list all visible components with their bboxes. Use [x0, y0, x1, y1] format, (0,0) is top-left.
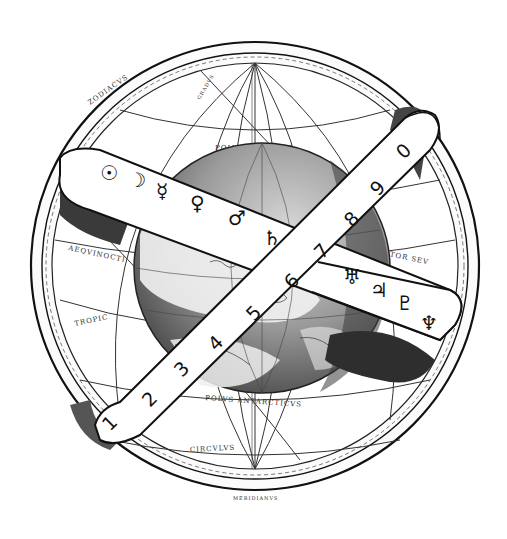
- neptune-icon-overlay: ♆: [420, 311, 438, 335]
- mars-icon: ♂: [228, 206, 246, 230]
- jupiter-icon-overlay: ♃: [370, 278, 388, 302]
- moon-icon: ☽: [128, 168, 146, 192]
- label-meridianus: MERIDIANVS: [233, 495, 279, 501]
- armillary-sphere-illustration: AEQVINOCTI TROPIC AEQVATOR SEV POLVS ANT…: [0, 0, 507, 539]
- venus-icon: ♀: [190, 191, 205, 215]
- pluto-icon-overlay: ♇: [396, 291, 414, 315]
- uranus-icon-overlay: ♅: [343, 265, 361, 289]
- sun-icon: ☉: [100, 161, 118, 185]
- mercury-icon: ☿: [156, 179, 168, 203]
